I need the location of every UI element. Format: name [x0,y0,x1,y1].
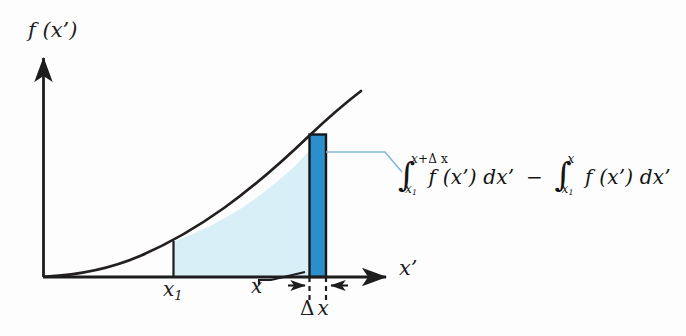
shaded-area-region [173,151,309,277]
integral-2: ∫ x x1 [554,160,578,194]
delta-x-label: Δx [300,298,329,318]
x1-subscript: 1 [174,288,182,303]
delta-x-variable: x [317,296,328,320]
lower-limit-sub-2: 1 [568,188,573,197]
formula-leader-line [326,152,402,172]
integral-2-upper-limit: x [567,153,574,165]
delta-x-slab [310,135,327,278]
upper-limit-base-1: x+ [411,152,428,166]
integral-1: ∫ x+Δ x x1 [398,160,422,194]
x-tick-label: x [251,276,262,296]
y-axis-label: f (x’) [28,20,77,41]
integral-1-upper-limit: x+Δ x [411,153,448,165]
delta-symbol: Δ [300,296,314,320]
integral-formula: ∫ x+Δ x x1 f (x’) dx’ − ∫ x x1 f (x’) dx… [398,160,671,194]
x1-base: x [163,277,174,301]
x-axis-label: x’ [399,258,418,279]
integral-figure: f (x’) x’ x1 x Δx ∫ x+Δ x x1 f (x’) dx’ … [0,0,686,336]
lower-limit-sub-1: 1 [412,188,417,197]
integral-2-lower-limit: x1 [561,183,573,197]
integrand-1: f (x’) dx’ [429,167,515,187]
x1-tick-label: x1 [163,279,183,302]
lower-limit-base-1: x [405,182,412,196]
minus-operator: − [521,167,548,187]
upper-limit-delta-1: Δ x [428,152,448,166]
integrand-2: f (x’) dx’ [585,167,671,187]
integral-1-lower-limit: x1 [405,183,417,197]
